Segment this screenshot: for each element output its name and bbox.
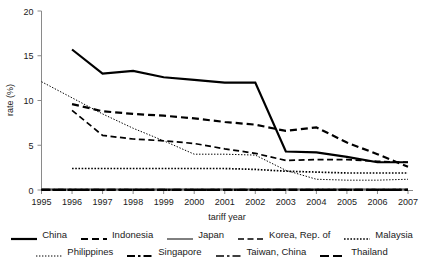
legend-item-singapore[interactable]: Singapore (127, 246, 201, 257)
legend-item-label: Singapore (158, 246, 201, 257)
series-line-indonesia (72, 104, 408, 167)
x-tick-label: 1995 (31, 197, 51, 207)
legend-line-swatch-icon (344, 230, 370, 240)
legend-item-label: Indonesia (112, 229, 153, 240)
series-line-china (72, 49, 408, 162)
series-line-malaysia (72, 169, 408, 173)
y-axis-title: rate (%) (5, 84, 15, 116)
legend-line-swatch-icon (127, 247, 153, 257)
x-tick-label: 2007 (398, 197, 418, 207)
legend-row-secondary: PhilippinesSingaporeTaiwan, ChinaThailan… (0, 243, 424, 260)
y-axis: 05101520 rate (%) (5, 7, 42, 196)
x-tick-label: 1996 (62, 197, 82, 207)
x-tick-labels: 1995199619971998199920002001200220032004… (31, 197, 418, 207)
x-axis: 1995199619971998199920002001200220032004… (31, 190, 418, 222)
x-tick-label: 2000 (184, 197, 204, 207)
legend-item-taiwan-china[interactable]: Taiwan, China (216, 246, 307, 257)
chart-legend: ChinaIndonesiaJapanKorea, Rep. ofMalaysi… (0, 226, 424, 260)
x-tick-label: 2001 (215, 197, 235, 207)
y-tick-label: 20 (23, 7, 33, 17)
y-tick-label: 15 (23, 51, 33, 61)
chart-container: 05101520 rate (%) 1995199619971998199920… (0, 0, 424, 267)
y-tick-label: 10 (23, 96, 33, 106)
legend-item-indonesia[interactable]: Indonesia (81, 229, 153, 240)
x-tick-label: 2003 (276, 197, 296, 207)
legend-item-malaysia[interactable]: Malaysia (344, 229, 413, 240)
legend-line-swatch-icon (238, 230, 264, 240)
legend-item-korea-rep-of[interactable]: Korea, Rep. of (238, 229, 330, 240)
x-axis-title: tariff year (208, 212, 245, 222)
legend-line-swatch-icon (320, 247, 346, 257)
legend-line-swatch-icon (11, 230, 37, 240)
legend-item-thailand[interactable]: Thailand (320, 246, 387, 257)
x-tick-label: 1997 (93, 197, 113, 207)
x-tick-label: 1998 (123, 197, 143, 207)
legend-item-label: China (42, 229, 67, 240)
legend-line-swatch-icon (81, 230, 107, 240)
legend-item-label: Taiwan, China (247, 246, 307, 257)
legend-item-philippines[interactable]: Philippines (36, 246, 113, 257)
y-tick-label: 0 (28, 186, 33, 196)
legend-line-swatch-icon (216, 247, 242, 257)
x-tick-label: 2004 (306, 197, 326, 207)
x-tick-label: 2006 (367, 197, 387, 207)
y-tick-labels: 05101520 (23, 7, 33, 196)
legend-item-china[interactable]: China (11, 229, 67, 240)
legend-item-label: Korea, Rep. of (269, 229, 330, 240)
legend-item-label: Philippines (67, 246, 113, 257)
series-line-korea-rep-of (72, 110, 408, 162)
x-tick-label: 2002 (245, 197, 265, 207)
x-tick-label: 2005 (337, 197, 357, 207)
legend-line-swatch-icon (36, 247, 62, 257)
legend-line-swatch-icon (167, 230, 193, 240)
y-tick-marks (38, 11, 42, 190)
legend-item-label: Japan (198, 229, 224, 240)
legend-item-label: Thailand (351, 246, 387, 257)
legend-item-japan[interactable]: Japan (167, 229, 224, 240)
x-tick-label: 1999 (154, 197, 174, 207)
y-tick-label: 5 (28, 141, 33, 151)
legend-row-primary: ChinaIndonesiaJapanKorea, Rep. ofMalaysi… (0, 226, 424, 243)
legend-item-label: Malaysia (375, 229, 413, 240)
data-series-group (42, 49, 409, 190)
